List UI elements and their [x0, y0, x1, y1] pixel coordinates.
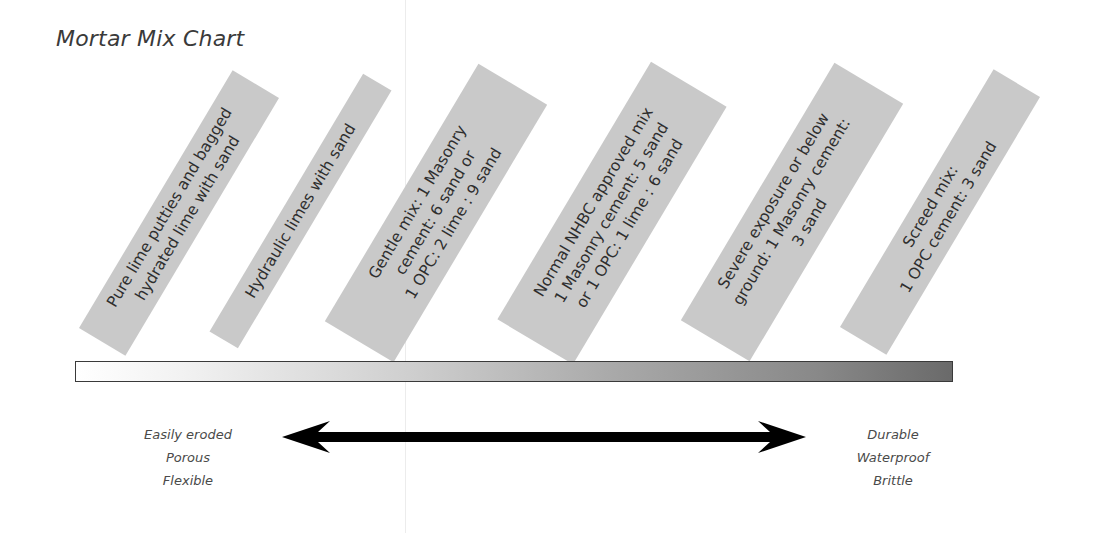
- strong-properties-label: Durable Waterproof Brittle: [838, 423, 948, 492]
- weak-properties-label: Easily eroded Porous Flexible: [128, 423, 248, 492]
- property-easily-eroded: Easily eroded: [128, 423, 248, 446]
- property-durable: Durable: [838, 423, 948, 446]
- property-waterproof: Waterproof: [838, 446, 948, 469]
- strength-gradient-bar: [75, 361, 953, 382]
- property-porous: Porous: [128, 446, 248, 469]
- double-headed-arrow-icon: [282, 420, 806, 454]
- property-brittle: Brittle: [838, 469, 948, 492]
- chart-title: Mortar Mix Chart: [56, 26, 244, 51]
- property-flexible: Flexible: [128, 469, 248, 492]
